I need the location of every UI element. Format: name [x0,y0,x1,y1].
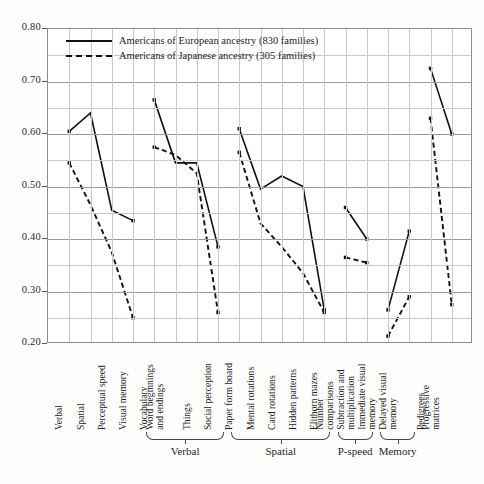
gridline-vertical [133,29,134,342]
gridline-vertical [261,29,262,342]
gridline-vertical [197,29,198,342]
x-axis-label: Word beginningsand endings [145,364,166,430]
gridline-vertical [239,29,240,342]
group-label: Memory [347,445,448,457]
x-axis-label: Paper form board [224,363,234,430]
group-bracket [380,432,415,440]
gridline-vertical [346,29,347,342]
x-axis-label: Numbercomparisons [315,382,336,431]
x-axis-labels: VerbalSpatialPerceptual speedVisual memo… [47,345,472,430]
plot-area [47,28,472,343]
gridline-vertical [112,29,113,342]
group-bracket [146,432,224,440]
y-axis-tick-label: 0.20 [0,336,41,347]
x-axis-label: Verbal [54,405,64,430]
y-axis-tick-label: 0.50 [0,179,41,190]
chart-figure: 0.800.700.600.500.400.300.20 Americans o… [0,0,484,484]
x-axis-label: Visual memory [118,371,128,430]
x-axis-label: Perceptual speed [97,365,107,430]
gridline-vertical [176,29,177,342]
x-axis-label: Card rotations [267,375,277,430]
series-segment [154,147,218,312]
group-bracket [338,432,373,440]
gridline-vertical [324,29,325,342]
series-segment [431,118,452,304]
legend-label: Americans of Japanese ancestry (305 fami… [119,48,315,63]
series-segment [388,297,409,336]
chart-legend: Americans of European ancestry (830 fami… [66,33,318,63]
y-axis-tick-label: 0.30 [0,284,41,295]
y-axis-tick-label: 0.40 [0,231,41,242]
x-axis-label: Hidden patterns [288,369,298,430]
gridline-vertical [431,29,432,342]
x-axis-label: Delayed visualmemory [378,373,399,430]
gridline-vertical [409,29,410,342]
gridline-vertical [388,29,389,342]
x-axis-label: Mental rotations [246,367,256,430]
x-axis-label: Spatial [76,403,86,430]
gridline-vertical [69,29,70,342]
y-axis-tick-label: 0.70 [0,74,41,85]
legend-label: Americans of European ancestry (830 fami… [119,33,318,48]
y-axis-tick-mark [42,343,47,344]
gridline-vertical [91,29,92,342]
gridline-vertical [303,29,304,342]
group-bracket [231,432,330,440]
y-axis-tick-label: 0.80 [0,21,41,32]
series-segment [69,113,133,221]
series-segment [346,257,367,262]
category-group-brackets: VerbalSpatialP-speedMemory [47,432,472,472]
legend-item: Americans of European ancestry (830 fami… [66,33,318,48]
x-axis-label: Things [182,403,192,430]
x-axis-label: Social perception [203,363,213,430]
gridline-vertical [367,29,368,342]
y-axis-tick-label: 0.60 [0,126,41,137]
series-segment [154,100,218,247]
gridline-vertical [452,29,453,342]
legend-item: Americans of Japanese ancestry (305 fami… [66,48,318,63]
x-axis-label: Immediate visualmemory [357,364,378,430]
series-segment [388,231,409,310]
gridline-vertical [218,29,219,342]
gridline-vertical [154,29,155,342]
x-axis-label: Progressivematrices [421,385,442,430]
series-segment [431,68,452,134]
gridline-vertical [282,29,283,342]
x-axis-label: Subtraction andmultiplication [336,370,357,430]
